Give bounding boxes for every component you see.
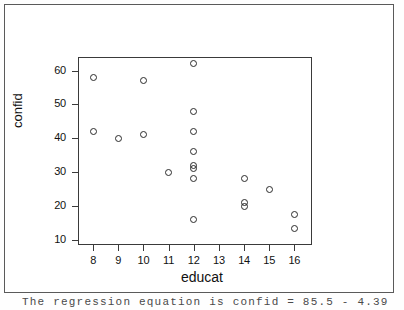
- y-axis-tick-label: 60: [54, 64, 66, 76]
- x-axis-tick: [244, 245, 245, 251]
- y-axis-tick: [72, 240, 78, 241]
- y-axis-title: confid: [10, 93, 25, 128]
- data-point: [115, 135, 122, 142]
- y-axis-tick-label: 10: [54, 233, 66, 245]
- x-axis-tick-label: 15: [263, 254, 275, 266]
- scanned-page: confid educat 10203040506089101112131415…: [0, 0, 404, 310]
- y-axis-tick: [72, 104, 78, 105]
- x-axis-tick: [294, 245, 295, 251]
- x-axis-tick-label: 14: [238, 254, 250, 266]
- x-axis-tick-label: 13: [213, 254, 225, 266]
- x-axis-tick-label: 16: [288, 254, 300, 266]
- data-point: [140, 77, 147, 84]
- plot-data-area: [78, 57, 312, 245]
- x-axis-tick-label: 8: [90, 254, 96, 266]
- x-axis-tick-label: 11: [163, 254, 174, 266]
- y-axis-tick: [72, 71, 78, 72]
- data-point: [140, 131, 147, 138]
- data-point: [190, 108, 197, 115]
- data-point: [190, 148, 197, 155]
- x-axis-tick: [118, 245, 119, 251]
- data-point: [190, 216, 197, 223]
- y-axis-tick-label: 20: [54, 199, 66, 211]
- data-point: [190, 175, 197, 182]
- data-point: [266, 186, 273, 193]
- x-axis-tick: [169, 245, 170, 251]
- x-axis-title: educat: [0, 269, 404, 285]
- data-point: [90, 128, 97, 135]
- x-axis-tick: [93, 245, 94, 251]
- y-axis-tick-label: 50: [54, 97, 66, 109]
- y-axis-tick: [72, 206, 78, 207]
- data-point: [190, 60, 197, 67]
- x-axis-tick: [143, 245, 144, 251]
- y-axis-tick-label: 30: [54, 165, 66, 177]
- x-axis-tick-label: 9: [115, 254, 121, 266]
- data-point: [190, 165, 197, 172]
- x-axis-tick: [219, 245, 220, 251]
- x-axis-tick-label: 10: [137, 254, 149, 266]
- y-axis-tick-label: 40: [54, 131, 66, 143]
- figure-caption: The regression equation is confid = 85.5…: [22, 297, 404, 310]
- y-axis-tick: [72, 172, 78, 173]
- data-point: [241, 175, 248, 182]
- caption-text: The regression equation is confid = 85.5…: [22, 297, 404, 308]
- scatter-plot-figure: confid educat 10203040506089101112131415…: [0, 0, 404, 310]
- data-point: [190, 128, 197, 135]
- x-axis-tick-label: 12: [188, 254, 200, 266]
- x-axis-tick: [269, 245, 270, 251]
- y-axis-tick: [72, 138, 78, 139]
- data-point: [291, 225, 298, 232]
- data-point: [165, 169, 172, 176]
- data-point: [241, 203, 248, 210]
- x-axis-tick: [194, 245, 195, 251]
- data-point: [90, 74, 97, 81]
- data-point: [291, 211, 298, 218]
